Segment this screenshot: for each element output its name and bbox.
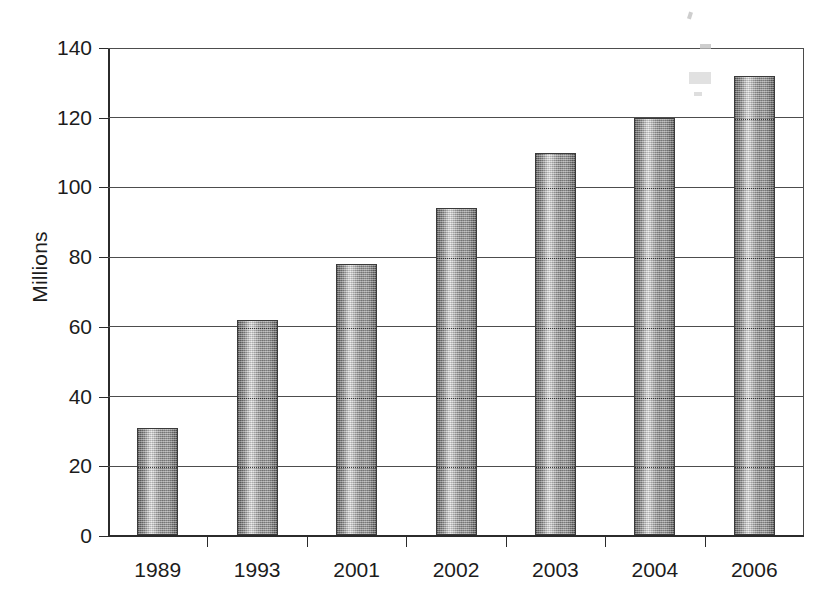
x-tick-mark — [605, 536, 606, 547]
y-tick-label: 60 — [69, 315, 92, 339]
x-tick-label: 2006 — [731, 558, 778, 582]
y-tick-label: 120 — [57, 106, 92, 130]
y-tick-mark — [99, 187, 108, 188]
y-tick-mark — [99, 118, 108, 119]
bar — [634, 118, 675, 535]
gridline-through-bar — [536, 398, 575, 400]
gridline — [108, 48, 804, 49]
bar — [336, 264, 377, 535]
gridline-through-bar — [635, 188, 674, 190]
gridline-through-bar — [635, 328, 674, 330]
bar-texture — [138, 429, 177, 534]
gridline-through-bar — [238, 328, 277, 330]
x-tick-mark — [506, 536, 507, 547]
x-tick-mark — [406, 536, 407, 547]
y-tick-label: 0 — [80, 524, 92, 548]
gridline — [108, 117, 804, 118]
bar — [436, 208, 477, 535]
scan-speck — [687, 12, 693, 20]
bar-texture — [337, 265, 376, 534]
gridline-through-bar — [437, 328, 476, 330]
y-axis-title: Millions — [28, 207, 52, 327]
gridline-through-bar — [536, 467, 575, 469]
gridline-through-bar — [635, 467, 674, 469]
y-tick-mark — [99, 48, 108, 49]
x-tick-label: 2003 — [532, 558, 579, 582]
y-tick-mark — [99, 466, 108, 467]
gridline-through-bar — [337, 398, 376, 400]
gridline-through-bar — [536, 188, 575, 190]
bar — [535, 153, 576, 535]
gridline-through-bar — [635, 258, 674, 260]
gridline-through-bar — [536, 258, 575, 260]
bar — [237, 320, 278, 535]
gridline-through-bar — [735, 188, 774, 190]
gridline-through-bar — [735, 467, 774, 469]
bar-texture — [735, 77, 774, 534]
y-axis-line — [108, 48, 110, 536]
gridline-through-bar — [635, 398, 674, 400]
y-tick-label: 100 — [57, 175, 92, 199]
bar — [734, 76, 775, 535]
plot-right-border — [803, 48, 804, 536]
bar-texture — [536, 154, 575, 534]
gridline-through-bar — [437, 467, 476, 469]
x-axis-line — [108, 535, 804, 537]
bar-texture — [635, 119, 674, 534]
gridline-through-bar — [735, 398, 774, 400]
x-tick-mark — [307, 536, 308, 547]
bar-texture — [437, 209, 476, 534]
gridline-through-bar — [735, 258, 774, 260]
y-tick-label: 80 — [69, 245, 92, 269]
y-tick-label: 40 — [69, 385, 92, 409]
y-tick-mark — [99, 257, 108, 258]
y-tick-mark — [99, 397, 108, 398]
x-tick-label: 2004 — [631, 558, 678, 582]
gridline-through-bar — [337, 467, 376, 469]
gridline-through-bar — [138, 467, 177, 469]
plot-area: 020406080100120140 198919932001200220032… — [108, 48, 804, 536]
y-tick-label: 20 — [69, 454, 92, 478]
x-tick-mark — [207, 536, 208, 547]
gridline-through-bar — [536, 328, 575, 330]
x-tick-mark — [705, 536, 706, 547]
x-tick-label: 2002 — [433, 558, 480, 582]
x-tick-label: 2001 — [333, 558, 380, 582]
bar — [137, 428, 178, 535]
gridline-through-bar — [238, 467, 277, 469]
y-tick-mark — [99, 327, 108, 328]
y-tick-mark — [99, 536, 108, 537]
gridline-through-bar — [437, 398, 476, 400]
x-tick-label: 1993 — [234, 558, 281, 582]
gridline-through-bar — [437, 258, 476, 260]
bar-chart: Millions 020406080100120140 198919932001… — [0, 0, 839, 594]
x-tick-label: 1989 — [134, 558, 181, 582]
y-tick-label: 140 — [57, 36, 92, 60]
bar-texture — [238, 321, 277, 534]
gridline-through-bar — [735, 119, 774, 121]
gridline-through-bar — [337, 328, 376, 330]
gridline-through-bar — [238, 398, 277, 400]
gridline-through-bar — [735, 328, 774, 330]
gridline — [108, 187, 804, 188]
